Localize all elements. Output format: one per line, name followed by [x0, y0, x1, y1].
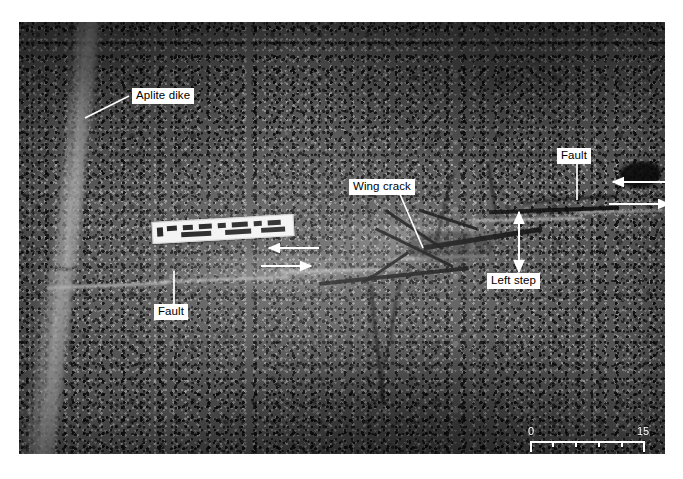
scale-tick-minor: [575, 441, 577, 447]
scale-label-end: 15: [637, 425, 649, 437]
scale-label-start: 0: [528, 425, 534, 437]
scale-tick-end: [643, 441, 645, 452]
scale-bar-line: [530, 441, 645, 443]
scale-tick-minor: [552, 441, 554, 447]
scale-tick-start: [530, 441, 532, 452]
figure-container: Aplite dike Wing crack Fault Fault Left …: [0, 0, 683, 479]
scale-unit-label: (cm): [577, 452, 598, 454]
photo-vignette: [19, 22, 665, 454]
scale-bar: 0 15 (cm): [530, 441, 645, 442]
scale-tick-minor: [598, 441, 600, 447]
scale-tick-minor: [621, 441, 623, 447]
figure-caption: [40, 468, 640, 479]
outcrop-photograph: Aplite dike Wing crack Fault Fault Left …: [19, 22, 665, 454]
